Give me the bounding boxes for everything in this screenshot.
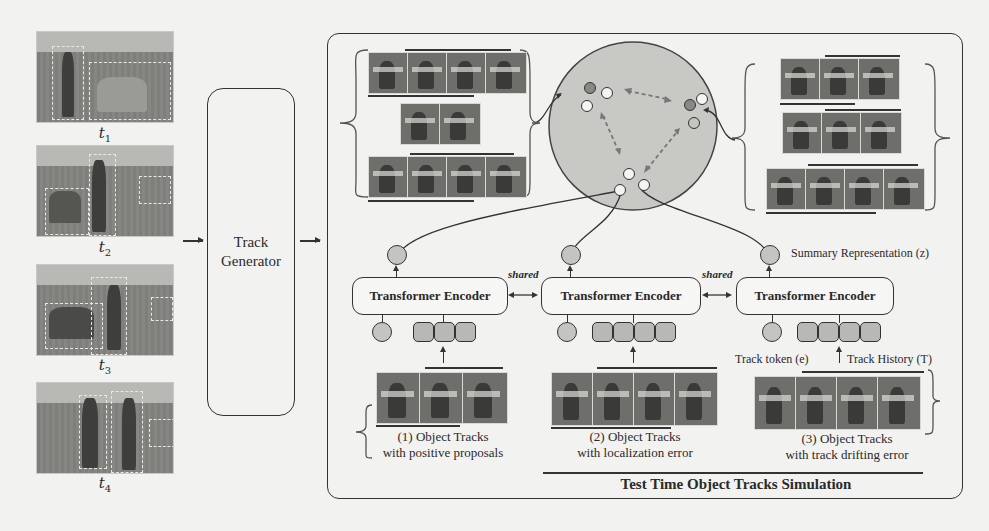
track-bar bbox=[376, 425, 460, 427]
track-bar bbox=[780, 103, 855, 105]
latent-point bbox=[614, 184, 626, 196]
history-token bbox=[634, 322, 655, 342]
track-token-2 bbox=[557, 322, 577, 342]
summary-representation-label: Summary Representation (z) bbox=[791, 246, 929, 261]
history-token bbox=[818, 322, 839, 342]
summary-representation-1 bbox=[387, 245, 407, 265]
track-bar bbox=[825, 109, 901, 111]
latent-point bbox=[696, 93, 708, 105]
track-3-caption: (3) Object Tracks with track drifting er… bbox=[762, 431, 932, 463]
shared-label-2: shared bbox=[702, 268, 733, 280]
history-token bbox=[434, 322, 455, 342]
arrow-up bbox=[633, 351, 634, 363]
cluster-track bbox=[368, 52, 524, 94]
track-bar bbox=[410, 153, 514, 155]
track-bar bbox=[368, 200, 474, 202]
track-token-3 bbox=[762, 322, 782, 342]
connector bbox=[633, 314, 634, 323]
history-token bbox=[592, 322, 613, 342]
track-token-1 bbox=[372, 322, 392, 342]
panel-title: Test Time Object Tracks Simulation bbox=[556, 476, 916, 493]
track-1-frames bbox=[376, 372, 505, 424]
connector bbox=[839, 314, 840, 323]
history-token bbox=[413, 322, 434, 342]
transformer-encoder-2: Transformer Encoder bbox=[541, 277, 701, 315]
cluster-track bbox=[780, 58, 897, 100]
latent-point bbox=[688, 117, 700, 129]
arrow-up bbox=[769, 270, 770, 277]
latent-point bbox=[584, 82, 596, 94]
history-token bbox=[655, 322, 676, 342]
track-2-frames bbox=[551, 372, 715, 426]
cluster-track bbox=[766, 168, 922, 210]
arrow-up bbox=[443, 351, 444, 363]
track-bar bbox=[766, 212, 876, 214]
track-2-caption: (2) Object Tracks with localization erro… bbox=[555, 429, 715, 461]
track-bar bbox=[597, 367, 717, 369]
latent-point bbox=[684, 99, 696, 111]
latent-point bbox=[601, 87, 613, 99]
history-token bbox=[613, 322, 634, 342]
history-token bbox=[839, 322, 860, 342]
history-token bbox=[860, 322, 881, 342]
track-bar bbox=[405, 49, 511, 51]
track-bar bbox=[368, 95, 474, 97]
transformer-encoder-3: Transformer Encoder bbox=[736, 277, 894, 315]
cluster-track bbox=[400, 103, 478, 145]
history-token bbox=[455, 322, 476, 342]
arrow-up bbox=[570, 270, 571, 277]
latent-point bbox=[581, 100, 593, 112]
shared-label-1: shared bbox=[508, 268, 539, 280]
track-bar bbox=[808, 164, 918, 166]
title-rule bbox=[543, 472, 923, 474]
track-3-frames bbox=[754, 376, 918, 430]
track-history-label: Track History (T) bbox=[847, 352, 932, 367]
track-bar bbox=[425, 367, 503, 369]
arrow-up bbox=[396, 270, 397, 277]
arrow-up bbox=[839, 351, 840, 363]
track-bar bbox=[825, 55, 900, 57]
transformer-encoder-1: Transformer Encoder bbox=[352, 277, 508, 315]
cluster-track bbox=[782, 112, 899, 154]
track-token-label: Track token (e) bbox=[735, 352, 809, 367]
latent-point bbox=[638, 179, 650, 191]
track-bar bbox=[802, 371, 924, 373]
summary-representation-2 bbox=[561, 245, 581, 265]
track-1-caption: (1) Object Tracks with positive proposal… bbox=[368, 429, 518, 461]
latent-point bbox=[623, 168, 635, 180]
history-token bbox=[797, 322, 818, 342]
cluster-track bbox=[368, 156, 524, 198]
summary-representation-3 bbox=[760, 245, 780, 265]
